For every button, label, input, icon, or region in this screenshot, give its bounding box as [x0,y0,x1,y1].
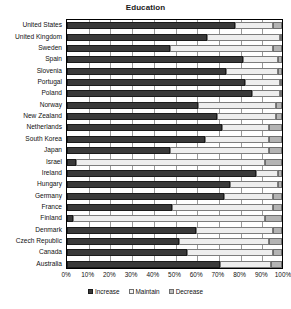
bar-segment-decrease [269,238,282,245]
legend-item-increase[interactable]: Increase [88,288,120,295]
legend-label: Increase [95,288,120,295]
bar-segment-decrease [273,227,282,234]
bar-segment-increase [67,227,196,234]
bar-segment-increase [67,249,187,256]
bar-row [67,102,282,109]
y-axis-label: New Zealand [23,111,62,120]
y-axis-label: Netherlands [26,122,62,131]
y-axis-label: United States [22,20,62,29]
y-axis-label: Ireland [42,168,62,177]
x-axis-tick: 90% [255,271,268,278]
y-axis-label: Portugal [37,77,62,86]
bar-row [67,22,282,29]
bar-segment-maintain [187,249,273,256]
x-axis-tick: 0% [61,271,70,278]
y-axis-label: Spain [45,54,62,63]
legend-item-maintain[interactable]: Maintain [129,288,160,295]
bar-segment-increase [67,147,170,154]
bar-row [67,215,282,222]
legend-item-decrease[interactable]: Decrease [169,288,203,295]
bar-segment-maintain [170,45,273,52]
x-axis-tick: 100% [275,271,291,278]
bar-segment-increase [67,90,252,97]
bar-segment-increase [67,68,226,75]
bar-segment-maintain [222,124,269,131]
bar-segment-maintain [252,90,280,97]
bar-row [67,227,282,234]
bar-rows [67,20,282,268]
bar-row [67,170,282,177]
legend-swatch-icon [129,289,134,294]
bar-segment-maintain [226,68,278,75]
y-axis-label: Poland [41,88,62,97]
bar-segment-increase [67,124,222,131]
bar-segment-decrease [273,45,282,52]
legend-swatch-icon [88,289,93,294]
bar-segment-maintain [73,215,264,222]
y-axis-label: Norway [40,100,62,109]
bar-segment-increase [67,45,170,52]
y-axis-label: South Korea [25,134,62,143]
x-axis-tick: 20% [103,271,116,278]
bar-segment-decrease [278,170,282,177]
bar-segment-maintain [205,136,270,143]
bar-segment-increase [67,22,235,29]
bar-row [67,124,282,131]
y-axis-label: Czech Republic [16,236,62,245]
bar-row [67,68,282,75]
legend-label: Maintain [136,288,160,295]
bar-segment-decrease [269,124,282,131]
x-axis-tick: 40% [146,271,159,278]
y-axis-label: France [41,202,62,211]
bar-segment-decrease [280,90,282,97]
x-axis-tick-labels: 0%10%20%30%40%50%60%70%80%90%100% [0,271,291,281]
bar-segment-increase [67,204,172,211]
bar-segment-decrease [273,249,282,256]
chart-legend: IncreaseMaintainDecrease [0,288,291,295]
bar-row [67,56,282,63]
x-axis-tick: 50% [168,271,181,278]
bar-row [67,34,282,41]
x-axis-tick: 60% [190,271,203,278]
bar-row [67,238,282,245]
bar-segment-increase [67,102,198,109]
bar-segment-decrease [265,159,282,166]
bar-segment-decrease [265,215,282,222]
chart-title: Education [0,3,291,12]
bar-segment-decrease [276,102,282,109]
bar-row [67,90,282,97]
y-axis-label: Israel [46,157,62,166]
bar-segment-increase [67,34,207,41]
bar-row [67,136,282,143]
plot-area [66,19,283,269]
bar-segment-maintain [172,204,273,211]
bar-segment-maintain [230,181,277,188]
bar-segment-increase [67,136,205,143]
bar-row [67,45,282,52]
y-axis-label: United Kingdom [15,32,62,41]
bar-segment-increase [67,159,76,166]
y-axis-label: Slovenia [37,66,62,75]
x-axis-tick: 80% [233,271,246,278]
legend-swatch-icon [169,289,174,294]
bar-segment-decrease [276,113,282,120]
y-axis-label: Canada [39,247,62,256]
legend-label: Decrease [176,288,203,295]
bar-row [67,249,282,256]
bar-row [67,159,282,166]
x-axis-tick: 30% [125,271,138,278]
bar-segment-decrease [280,34,282,41]
bar-segment-increase [67,181,230,188]
x-axis-tick: 70% [211,271,224,278]
bar-segment-maintain [220,261,272,268]
bar-segment-maintain [207,34,280,41]
bar-segment-maintain [245,79,279,86]
bar-segment-decrease [278,68,282,75]
bar-segment-increase [67,170,256,177]
bar-segment-decrease [269,136,282,143]
bar-segment-decrease [273,22,282,29]
bar-row [67,147,282,154]
y-axis-label: Australia [36,259,62,268]
y-axis-category-labels: United StatesUnited KingdomSwedenSpainSl… [0,19,64,269]
bar-segment-maintain [217,113,275,120]
